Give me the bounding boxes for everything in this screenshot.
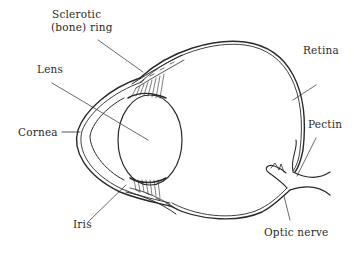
label-lens: Lens [37, 63, 63, 75]
label-pectin: Pectin [308, 118, 342, 130]
leader-sclerotic [98, 40, 143, 72]
eyeball-lower-wall [170, 190, 290, 219]
leader-iris [88, 185, 126, 222]
label-optic-nerve: Optic nerve [264, 226, 328, 238]
lens [118, 95, 182, 185]
eye-diagram: Sclerotic (bone) ring Lens Cornea Iris R… [0, 0, 360, 256]
leader-retina [293, 85, 316, 100]
eyeball-wall [140, 41, 304, 172]
leader-pectin [297, 138, 316, 176]
label-sclerotic-line1: Sclerotic [52, 8, 101, 20]
optic-nerve [290, 187, 330, 195]
label-sclerotic-line2: (bone) ring [51, 21, 113, 33]
leader-lens [52, 83, 148, 140]
label-cornea: Cornea [18, 126, 58, 138]
label-iris: Iris [73, 218, 92, 230]
label-retina: Retina [303, 44, 339, 56]
leader-optic-nerve [284, 196, 290, 220]
